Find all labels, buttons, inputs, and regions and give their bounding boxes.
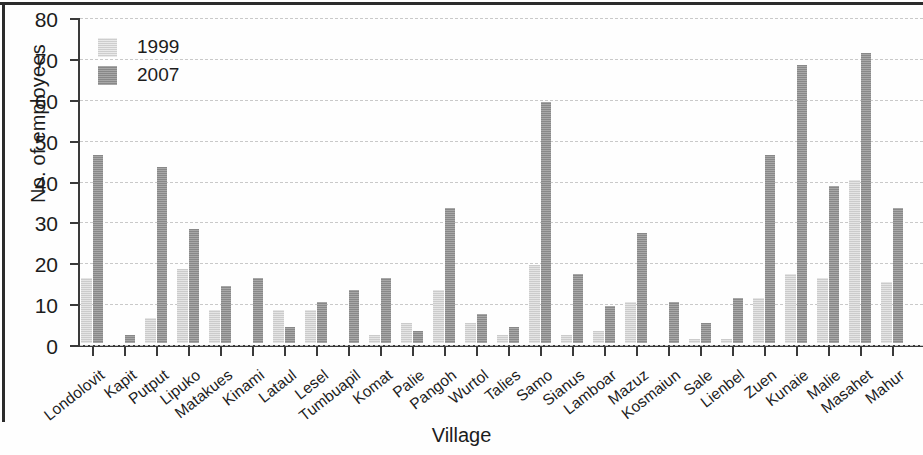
- bar-1999-lamboar: [593, 331, 604, 343]
- bar-1999-malie: [817, 278, 828, 343]
- x-tick-mark: [508, 347, 510, 356]
- bar-2007-sale: [701, 323, 712, 343]
- bar-2007-sianus: [573, 274, 584, 343]
- bar-1999-samo: [529, 265, 540, 343]
- bar-1999-lesel: [305, 310, 316, 343]
- figure-left-border: [2, 2, 5, 422]
- x-tick-mark: [892, 347, 894, 356]
- bar-2007-putput: [157, 167, 168, 343]
- bar-2007-lienbel: [733, 298, 744, 343]
- y-tick-mark: 50: [70, 141, 78, 143]
- bar-2007-kinami: [253, 278, 264, 343]
- x-tick-mark: [380, 347, 382, 356]
- bar-1999-sianus: [561, 335, 572, 343]
- x-tick-mark: [860, 347, 862, 356]
- legend-label-2007: 2007: [137, 64, 179, 86]
- bar-2007-kunaie: [797, 65, 808, 343]
- bar-2007-masahet: [861, 53, 872, 343]
- bar-2007-palie: [413, 331, 424, 343]
- gridline: [80, 18, 923, 19]
- y-tick-mark: 30: [70, 222, 78, 224]
- bar-1999-kunaie: [785, 274, 796, 343]
- y-tick-mark: 60: [70, 100, 78, 102]
- x-tick-mark: [412, 347, 414, 356]
- bar-1999-lienbel: [721, 339, 732, 343]
- bar-2007-londolovit: [93, 155, 104, 343]
- bar-2007-malie: [829, 186, 840, 343]
- bar-1999-mazuz: [625, 302, 636, 343]
- bar-2007-tumbuapil: [349, 290, 360, 343]
- figure-top-border: [0, 2, 923, 5]
- bar-1999-lataul: [273, 310, 284, 343]
- bar-1999-londolovit: [81, 278, 92, 343]
- y-tick-label: 10: [35, 294, 58, 318]
- y-tick-label: 70: [35, 48, 58, 72]
- y-tick-label: 80: [35, 8, 58, 32]
- x-tick-mark: [284, 347, 286, 356]
- bar-1999-matakues: [209, 310, 220, 343]
- legend-swatch-2007-icon: [98, 66, 117, 85]
- x-tick-mark: [828, 347, 830, 356]
- bar-chart-figure: No. of employees 01020304050607080 Londo…: [0, 0, 923, 455]
- legend-item-2007: 2007: [98, 61, 268, 89]
- bar-2007-samo: [541, 102, 552, 343]
- y-tick-mark: 10: [70, 304, 78, 306]
- x-tick-label: Talies: [481, 366, 524, 405]
- x-tick-mark: [540, 347, 542, 356]
- y-tick-mark: 80: [70, 18, 78, 20]
- bar-2007-komat: [381, 278, 392, 343]
- x-tick-mark: [252, 347, 254, 356]
- x-tick-mark: [796, 347, 798, 356]
- y-tick-mark: 0: [70, 345, 78, 347]
- x-tick-mark: [124, 347, 126, 356]
- bar-2007-matakues: [221, 286, 232, 343]
- y-axis-line: [78, 18, 80, 347]
- bar-2007-mazuz: [637, 233, 648, 343]
- bar-2007-lipuko: [189, 229, 200, 343]
- x-tick-mark: [668, 347, 670, 356]
- y-tick-mark: 70: [70, 59, 78, 61]
- x-tick-mark: [92, 347, 94, 356]
- legend-swatch-1999-icon: [98, 38, 117, 57]
- gridline: [80, 345, 923, 346]
- bar-2007-lamboar: [605, 306, 616, 343]
- bar-2007-kapit: [125, 335, 136, 343]
- x-tick-mark: [604, 347, 606, 356]
- y-tick-label: 20: [35, 253, 58, 277]
- x-tick-mark: [636, 347, 638, 356]
- y-tick-mark: 20: [70, 263, 78, 265]
- x-tick-mark: [700, 347, 702, 356]
- x-tick-mark: [156, 347, 158, 356]
- bar-1999-palie: [401, 323, 412, 343]
- x-tick-mark: [188, 347, 190, 356]
- bar-2007-zuen: [765, 155, 776, 343]
- bar-1999-wurtol: [465, 323, 476, 343]
- bar-1999-sale: [689, 339, 700, 343]
- x-tick-mark: [572, 347, 574, 356]
- bar-1999-komat: [369, 335, 380, 343]
- bar-1999-mahur: [881, 282, 892, 343]
- bar-2007-talies: [509, 327, 520, 343]
- bar-2007-kosmaiun: [669, 302, 680, 343]
- legend-item-1999: 1999: [98, 33, 268, 61]
- bar-1999-lipuko: [177, 269, 188, 343]
- x-tick-mark: [732, 347, 734, 356]
- x-axis-title: Village: [0, 424, 923, 447]
- bar-1999-talies: [497, 335, 508, 343]
- y-tick-label: 30: [35, 212, 58, 236]
- x-tick-label: Londolovit: [41, 366, 109, 424]
- x-tick-mark: [220, 347, 222, 356]
- x-tick-mark: [444, 347, 446, 356]
- x-tick-mark: [764, 347, 766, 356]
- bar-1999-masahet: [849, 180, 860, 344]
- bar-2007-lesel: [317, 302, 328, 343]
- bar-2007-pangoh: [445, 208, 456, 343]
- bar-1999-pangoh: [433, 290, 444, 343]
- y-tick-label: 40: [35, 171, 58, 195]
- x-tick-mark: [316, 347, 318, 356]
- chart-legend: 1999 2007: [98, 33, 268, 89]
- y-tick-mark: 40: [70, 182, 78, 184]
- bar-1999-zuen: [753, 298, 764, 343]
- bar-2007-mahur: [893, 208, 904, 343]
- y-tick-label: 60: [35, 89, 58, 113]
